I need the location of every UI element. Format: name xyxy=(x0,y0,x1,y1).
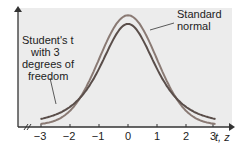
t-label-line: with 3 xyxy=(22,46,74,58)
x-tick-label: −1 xyxy=(88,130,108,142)
x-tick-label: 1 xyxy=(147,130,167,142)
x-tick-label: 2 xyxy=(176,130,196,142)
x-tick-label: 0 xyxy=(118,130,138,142)
normal-label-line: normal xyxy=(177,20,222,32)
chart: Standard normal Student's t with 3 degre… xyxy=(0,0,245,148)
t-label-line: Student's t xyxy=(22,34,74,46)
x-tick-label: −2 xyxy=(59,130,79,142)
t-label: Student's t with 3 degrees of freedom xyxy=(22,34,74,82)
t-label-line: freedom xyxy=(22,70,74,82)
t-label-line: degrees of xyxy=(22,58,74,70)
normal-label-line: Standard xyxy=(177,8,222,20)
x-axis-label: t, z xyxy=(215,131,230,143)
normal-label: Standard normal xyxy=(177,8,222,32)
x-tick-label: −3 xyxy=(30,130,50,142)
